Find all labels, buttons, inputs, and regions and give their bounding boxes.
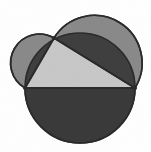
figure-svg — [0, 0, 151, 152]
grain-texture — [0, 0, 151, 152]
geometric-figure-canvas — [0, 0, 151, 152]
